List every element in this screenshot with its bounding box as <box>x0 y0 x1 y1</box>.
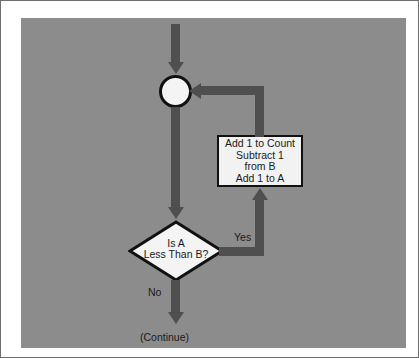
yes-label: Yes <box>234 231 251 243</box>
loop-horizontal-line <box>199 86 264 95</box>
junction-node[interactable] <box>159 75 192 108</box>
no-label: No <box>148 286 161 298</box>
decision-label: Is A Less Than B? <box>128 220 224 282</box>
figure-matte: Add 1 to Count Subtract 1 from B Add 1 t… <box>4 4 417 356</box>
junction-to-decision-arrowhead-icon <box>168 207 184 219</box>
process-node[interactable]: Add 1 to Count Subtract 1 from B Add 1 t… <box>217 135 303 187</box>
entry-arrowhead-icon <box>168 62 184 74</box>
decision-node[interactable]: Is A Less Than B? <box>128 220 224 282</box>
flowchart-canvas: Add 1 to Count Subtract 1 from B Add 1 t… <box>21 18 406 348</box>
process-line-1: Add 1 to Count <box>225 138 295 150</box>
figure-frame: Add 1 to Count Subtract 1 from B Add 1 t… <box>0 0 419 358</box>
continue-label: (Continue) <box>140 331 189 343</box>
loop-arrowhead-icon <box>189 83 201 99</box>
no-branch-line <box>171 280 180 314</box>
decision-line-2: Less Than B? <box>144 249 209 261</box>
no-branch-arrowhead-icon <box>168 312 184 324</box>
process-line-3: from B <box>245 161 276 173</box>
yes-branch-arrowhead-icon <box>252 188 268 200</box>
yes-branch-vertical-line <box>255 200 264 255</box>
entry-connector-line <box>171 24 180 64</box>
junction-to-decision-line <box>171 107 180 209</box>
process-line-4: Add 1 to A <box>236 173 284 185</box>
